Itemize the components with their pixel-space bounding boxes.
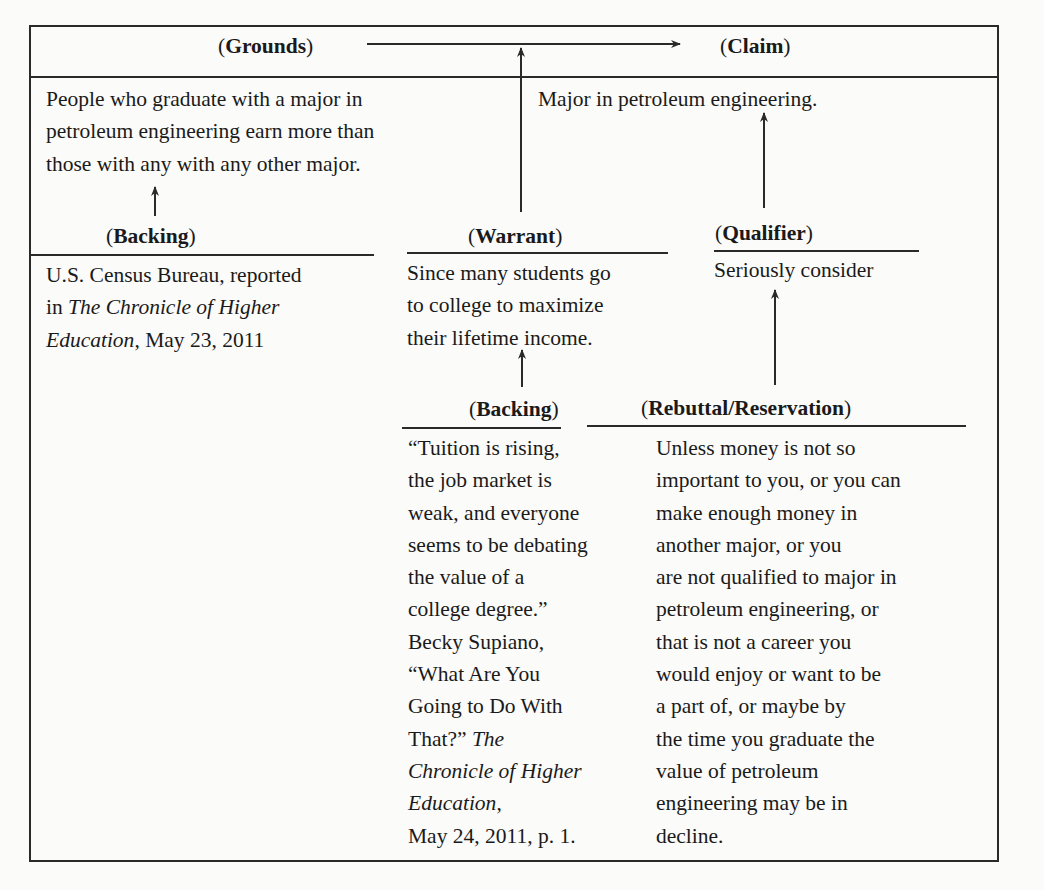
connector-arrows — [0, 0, 1044, 890]
